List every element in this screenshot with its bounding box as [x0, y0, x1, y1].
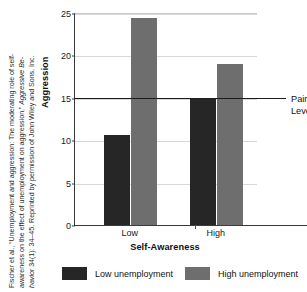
legend-swatch-icon-low	[62, 267, 87, 280]
caption-line-3: havior 34(1): 34–45. Reprinted by permis…	[29, 56, 37, 288]
caption-journal-name-part2: havior	[28, 269, 36, 288]
y-axis-tick-mark	[72, 14, 75, 15]
gridline	[75, 56, 257, 57]
legend-item-high-unemployment: High unemployment	[185, 267, 298, 280]
caption-line-2: awareness on the effect of unemployment …	[19, 57, 27, 288]
chart-legend: Low unemployment High unemployment	[44, 265, 307, 287]
y-axis-tick-label: 0	[66, 221, 71, 231]
y-axis-tick-label: 5	[66, 179, 71, 189]
y-axis-label: Aggression	[40, 56, 50, 108]
gridline	[75, 14, 257, 15]
source-caption: Fischer et al., “Unemployment and aggres…	[0, 0, 44, 292]
caption-line-2-text: awareness on the effect of unemployment …	[18, 105, 26, 288]
x-axis-mid-tick	[195, 225, 196, 229]
y-axis-tick-label: 10	[61, 136, 71, 146]
y-axis-tick-mark	[72, 141, 75, 142]
pain-level-line	[74, 98, 286, 100]
y-axis-tick-mark	[72, 56, 75, 57]
bar-low-low-unemployment	[104, 135, 130, 225]
bar-high-low-unemployment	[190, 98, 216, 225]
y-axis-tick-label: 20	[61, 51, 71, 61]
x-axis-label: Self-Awareness	[130, 242, 200, 252]
pain-level-line2: Level	[291, 106, 307, 118]
x-axis-line	[74, 225, 307, 226]
x-axis-tick-label-low: Low	[122, 228, 139, 238]
legend-swatch-icon-high	[185, 267, 210, 280]
caption-line-1-text: Fischer et al., “Unemployment and aggres…	[8, 54, 16, 288]
x-axis-tick-label-high: High	[207, 228, 226, 238]
caption-journal-name-part1: Aggressive Be-	[18, 57, 26, 105]
legend-label-high: High unemployment	[218, 269, 298, 279]
legend-item-low-unemployment: Low unemployment	[62, 267, 173, 280]
pain-level-line1: Pain	[291, 94, 307, 106]
caption-line-3-text: 34(1): 34–45. Reprinted by permission of…	[28, 56, 36, 269]
y-axis-tick-mark	[72, 183, 75, 184]
plot-area: 0510152025	[74, 13, 257, 225]
y-axis-tick-label: 15	[61, 94, 71, 104]
y-axis-tick-label: 25	[61, 9, 71, 19]
bar-chart: Aggression 0510152025 Self-Awareness Pai…	[44, 4, 307, 292]
pain-level-annotation: Pain Level	[291, 94, 307, 117]
caption-line-1: Fischer et al., “Unemployment and aggres…	[9, 54, 17, 288]
bar-high-high-unemployment	[217, 64, 243, 225]
legend-label-low: Low unemployment	[95, 269, 173, 279]
bar-low-high-unemployment	[131, 18, 157, 225]
